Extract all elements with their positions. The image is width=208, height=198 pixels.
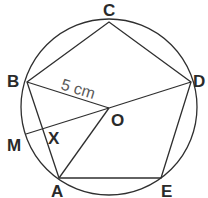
label-d: D — [193, 72, 205, 91]
radius-om — [26, 108, 109, 134]
label-x: X — [48, 129, 60, 148]
label-c: C — [103, 1, 115, 20]
radius-oa — [59, 108, 109, 178]
label-o: O — [111, 111, 124, 130]
label-e: E — [161, 182, 172, 198]
geometry-diagram: C B D O M X A E 5 cm — [0, 0, 208, 198]
circumscribed-circle — [21, 19, 197, 195]
pentagon-abcde — [27, 22, 191, 178]
label-a: A — [51, 182, 63, 198]
label-b: B — [7, 72, 19, 91]
radius-od — [109, 82, 191, 108]
label-m: M — [7, 136, 21, 155]
